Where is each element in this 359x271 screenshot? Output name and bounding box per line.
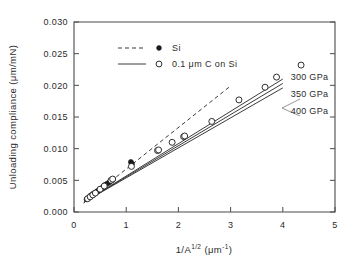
figure-container: 012345 0.0000.0050.0100.0150.0200.0250.0… xyxy=(0,0,359,271)
data-point-c-on-si-5 xyxy=(101,183,107,189)
model-line-350-gpa xyxy=(84,83,282,201)
data-point-c-on-si-17 xyxy=(274,74,280,80)
unloading-compliance-scatter-plot: 012345 0.0000.0050.0100.0150.0200.0250.0… xyxy=(0,0,359,271)
data-point-c-on-si-10 xyxy=(156,147,162,153)
data-point-c-on-si-15 xyxy=(236,97,242,103)
legend-marker-si xyxy=(157,46,162,51)
x-title-units-base: μm xyxy=(208,244,222,255)
data-point-c-on-si-7 xyxy=(110,176,116,182)
x-title-base: 1/A xyxy=(176,244,192,255)
y-axis-tick-labels: 0.0000.0050.0100.0150.0200.0250.030 xyxy=(43,17,68,217)
y-tick-label-1: 0.005 xyxy=(43,176,68,186)
model-fit-lines xyxy=(84,79,282,202)
y-tick-label-5: 0.025 xyxy=(43,49,68,59)
data-point-c-on-si-14 xyxy=(209,118,215,124)
pressure-annotations: 300 GPa350 GPa400 GPa xyxy=(291,72,329,116)
legend: Si 0.1 μm C on Si xyxy=(118,43,237,69)
x-title-units-close: ) xyxy=(229,244,233,255)
y-tick-label-4: 0.020 xyxy=(43,81,68,91)
y-axis-title: Unloading compliance (μm/mN) xyxy=(7,45,18,189)
x-tick-label-4: 4 xyxy=(280,220,285,230)
y-tick-label-6: 0.030 xyxy=(43,17,68,27)
x-tick-label-5: 5 xyxy=(332,220,337,230)
data-point-c-on-si-13 xyxy=(182,133,188,139)
legend-label-si: Si xyxy=(172,43,181,53)
x-axis-tick-labels: 012345 xyxy=(71,220,337,230)
data-point-c-on-si-18 xyxy=(298,62,304,68)
x-axis-title: 1/A1/2 (μm-1) xyxy=(176,243,233,255)
data-point-c-on-si-8 xyxy=(128,163,134,169)
model-line-400-gpa xyxy=(84,88,282,202)
legend-label-c-on-si: 0.1 μm C on Si xyxy=(172,59,237,69)
data-point-c-on-si-11 xyxy=(169,139,175,145)
annotation-400-gpa: 400 GPa xyxy=(291,106,329,116)
annotation-300-gpa: 300 GPa xyxy=(291,72,329,82)
x-tick-label-0: 0 xyxy=(71,220,76,230)
x-title-exponent: 1/2 xyxy=(191,243,201,250)
y-tick-label-2: 0.010 xyxy=(43,144,68,154)
x-tick-label-3: 3 xyxy=(228,220,233,230)
y-tick-label-3: 0.015 xyxy=(43,112,68,122)
x-tick-label-2: 2 xyxy=(176,220,181,230)
x-title-units-exp: -1 xyxy=(222,243,229,250)
x-tick-label-1: 1 xyxy=(123,220,128,230)
data-point-c-on-si-16 xyxy=(262,84,268,90)
annotation-350-gpa: 350 GPa xyxy=(291,89,329,99)
legend-marker-c-on-si xyxy=(156,61,162,67)
y-tick-label-0: 0.000 xyxy=(43,207,68,217)
data-series-c-on-si xyxy=(85,62,304,202)
x-axis-ticks xyxy=(74,207,335,212)
model-line-300-gpa xyxy=(84,79,282,202)
